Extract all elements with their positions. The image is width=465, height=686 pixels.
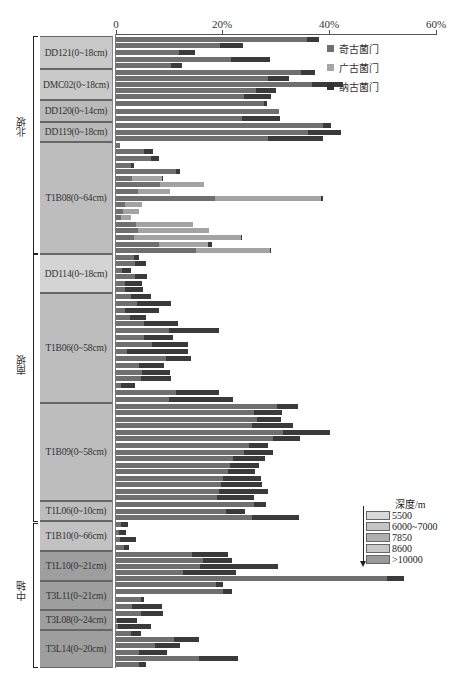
bar-segment [215, 196, 321, 201]
bar-segment [192, 552, 228, 557]
group-label-box: DD114(0~18cm) [40, 254, 113, 293]
bar-segment [125, 308, 159, 313]
x-tick-60 [436, 30, 437, 34]
bar-row [116, 196, 323, 201]
bar-segment [200, 564, 278, 569]
group-label-box: T1B10(0~66cm) [40, 521, 113, 551]
bar-segment [144, 335, 173, 340]
bar-segment [116, 576, 387, 581]
bar-row [116, 363, 164, 368]
bar-row [116, 489, 268, 494]
bar-segment [116, 662, 139, 667]
bar-segment [116, 410, 254, 415]
bar-row [116, 552, 228, 557]
bar-row [116, 342, 188, 347]
depth-label: 8600 [392, 543, 412, 554]
bar-segment [124, 545, 129, 550]
bar-segment [116, 116, 242, 121]
bar-segment [159, 242, 208, 247]
bar-segment [252, 515, 299, 520]
bar-segment [254, 410, 282, 415]
bar-row [116, 321, 178, 326]
group-label-box: T1L10(0~21cm) [40, 551, 113, 581]
bar-row [116, 662, 146, 667]
bar-row [116, 509, 245, 514]
group-label-box: T1B06(0~58cm) [40, 293, 113, 403]
bar-segment [116, 163, 131, 168]
bar-row [116, 383, 135, 388]
bar-row [116, 643, 180, 648]
bar-segment [116, 222, 136, 227]
bar-row [116, 463, 259, 468]
bar-segment [216, 582, 223, 587]
bar-segment [116, 597, 141, 602]
bar-segment [257, 417, 282, 422]
bar-row [116, 482, 262, 487]
bar-row [116, 631, 141, 636]
bar-row [116, 215, 131, 220]
bar-segment [116, 356, 166, 361]
bar-row [116, 123, 331, 128]
bar-segment [270, 248, 271, 253]
depth-item-7850: 7850 [366, 532, 412, 543]
bar-segment [219, 489, 268, 494]
bar-segment [273, 436, 300, 441]
bar-segment [208, 242, 212, 247]
bar-segment [252, 423, 294, 428]
bar-row [116, 101, 267, 106]
bar-row [116, 328, 219, 333]
depth-legend-title: 深度/m [395, 496, 426, 511]
bar-row [116, 476, 261, 481]
x-axis-line [115, 34, 437, 35]
bar-row [116, 502, 266, 507]
bar-segment [135, 274, 147, 279]
bar-row [116, 417, 281, 422]
depth-arrow-line [363, 506, 364, 562]
bar-segment [116, 321, 144, 326]
group-label-box: T3L08(0~24cm) [40, 610, 113, 630]
bar-row [116, 611, 163, 616]
bar-segment [116, 335, 144, 340]
bar-segment [116, 611, 141, 616]
bar-segment [116, 604, 132, 609]
bar-segment [116, 589, 223, 594]
bar-segment [116, 582, 216, 587]
region-bracket-north [33, 36, 38, 254]
bar-segment [308, 130, 341, 135]
depth-label: 6000~7000 [392, 521, 437, 532]
bar-segment [174, 637, 199, 642]
bar-segment [116, 242, 159, 247]
bar-row [116, 436, 300, 441]
bar-row [116, 189, 170, 194]
bar-segment [118, 624, 151, 629]
bar-segment [136, 222, 193, 227]
bar-row [116, 228, 209, 233]
bar-row [116, 149, 153, 154]
bar-segment [127, 349, 189, 354]
x-tick-label-0: 0 [113, 18, 119, 30]
bar-segment [116, 50, 179, 55]
bar-row [116, 618, 137, 623]
bar-segment [139, 650, 167, 655]
bar-segment [135, 261, 147, 266]
legend-swatch-icon [327, 64, 334, 71]
bar-row [116, 182, 204, 187]
depth-swatch-icon [366, 522, 390, 531]
group-label-box: DD119(0~18cm) [40, 122, 113, 142]
stacked-bar-chart: 0 20% 40% 60% DD121(0~18cm)DMC02(0~18cm)… [0, 0, 465, 686]
region-bracket-center [33, 523, 38, 668]
bar-row [116, 143, 120, 148]
legend-swatch-icon [327, 83, 334, 90]
bar-segment [116, 397, 169, 402]
bar-segment [116, 76, 268, 81]
bar-segment [223, 589, 233, 594]
depth-item-6000-7000: 6000~7000 [366, 521, 437, 532]
bar-segment [116, 315, 130, 320]
bar-row [116, 558, 232, 563]
bar-segment [116, 376, 141, 381]
depth-swatch-icon [366, 511, 390, 520]
bar-segment [116, 101, 264, 106]
bar-segment [144, 149, 153, 154]
bar-row [116, 537, 136, 542]
bar-segment [116, 43, 220, 48]
